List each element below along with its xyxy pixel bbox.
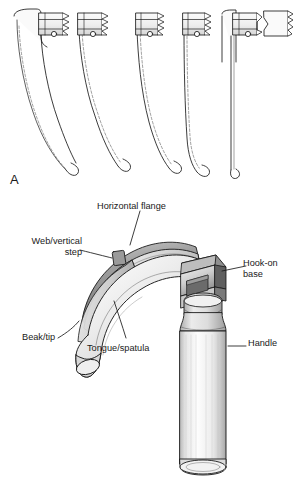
label-horizontal-flange: Horizontal flange xyxy=(97,201,166,212)
label-beak-tip: Beak/tip xyxy=(22,332,55,343)
panel-a-drawing xyxy=(0,0,300,200)
figure-container: A xyxy=(0,0,300,486)
label-tongue-spatula: Tongue/spatula xyxy=(87,343,149,354)
blade-profile-4 xyxy=(183,13,211,176)
blade-profile-1 xyxy=(14,9,79,175)
leader-beak-tip xyxy=(58,321,79,338)
web-step-marker-icon xyxy=(112,250,126,266)
blade-profile-2 xyxy=(78,13,131,171)
panel-a-letter: A xyxy=(10,172,19,187)
blade-profile-3 xyxy=(136,13,182,173)
panel-a-blade-profiles: A xyxy=(0,0,300,200)
blade-profile-5-straight xyxy=(222,10,293,179)
label-hook-on-base: Hook-on base xyxy=(243,258,278,280)
handle-shape xyxy=(180,293,226,475)
leader-web-vertical-step xyxy=(80,250,112,258)
leader-horizontal-flange xyxy=(130,211,140,245)
label-web-vertical-step: Web/vertical step xyxy=(8,236,82,258)
label-handle: Handle xyxy=(248,338,277,349)
